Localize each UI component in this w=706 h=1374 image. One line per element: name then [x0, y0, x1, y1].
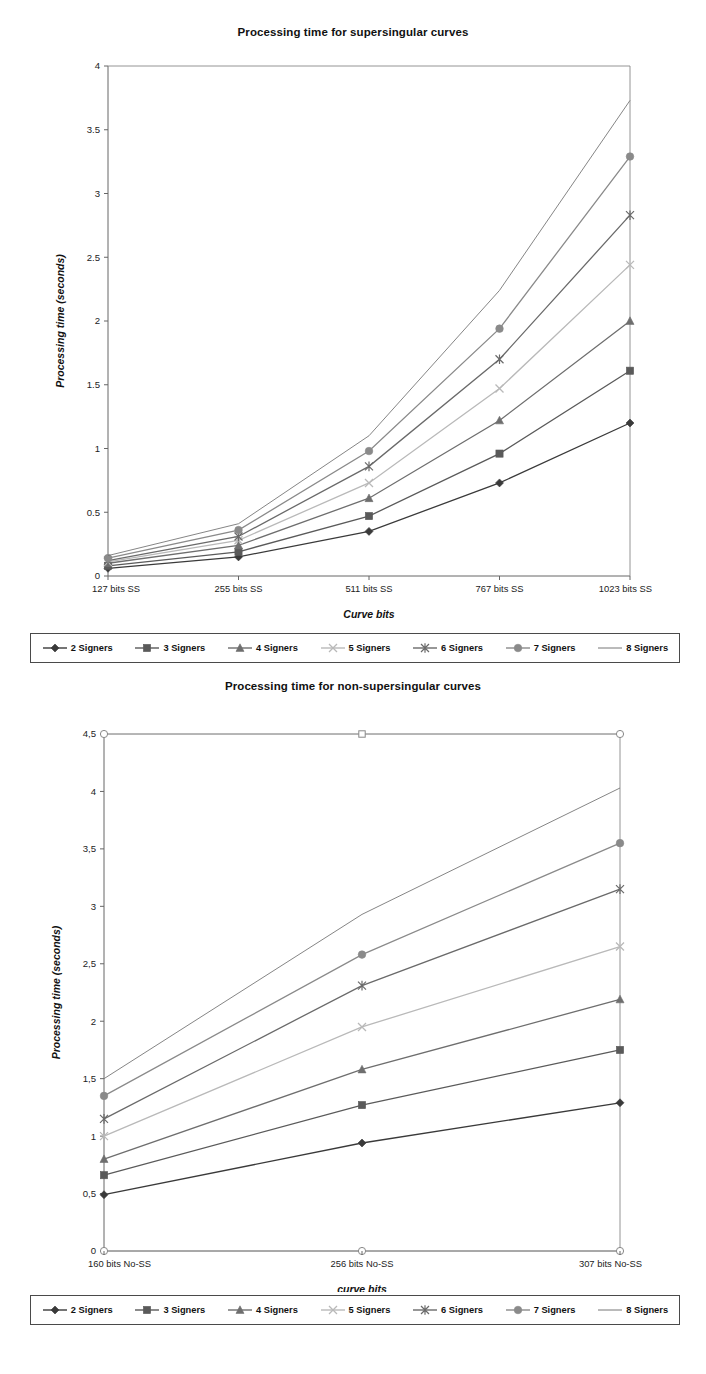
legend-item-label: 3 Signers [163, 643, 205, 653]
legend-item-2-signers[interactable]: 2 Signers [42, 641, 113, 655]
legend-item-label: 8 Signers [626, 1305, 668, 1315]
data-point-star [616, 884, 624, 894]
legend-item-label: 7 Signers [534, 643, 576, 653]
data-point-square [496, 450, 503, 457]
legend-item-label: 5 Signers [349, 643, 391, 653]
data-point-diamond [365, 527, 373, 535]
data-point-diamond [100, 1191, 108, 1199]
legend-marker-cross-icon [320, 1303, 346, 1317]
data-point-cross [365, 479, 373, 487]
x-axis-title: Curve bits [343, 608, 395, 620]
y-tick-label: 4 [91, 786, 97, 797]
y-tick-label: 3 [95, 188, 100, 199]
data-point-star [358, 981, 366, 991]
data-point-circle [365, 447, 373, 455]
y-tick-label: 1,5 [83, 1073, 96, 1084]
x-tick-label: 255 bits SS [215, 583, 263, 594]
x-tick-label: 127 bits SS [92, 583, 140, 594]
legend-item-3-signers[interactable]: 3 Signers [134, 641, 205, 655]
series-line-6-signers [108, 215, 630, 561]
legend-item-4-signers[interactable]: 4 Signers [227, 1303, 298, 1317]
legend-item-label: 8 Signers [626, 643, 668, 653]
chart-title-non-supersingular: Processing time for non-supersingular cu… [0, 672, 706, 692]
x-tick-label: 160 bits No-SS [88, 1258, 151, 1269]
y-tick-label: 1 [95, 443, 100, 454]
legend-item-label: 6 Signers [441, 1305, 483, 1315]
legend-item-5-signers[interactable]: 5 Signers [320, 641, 391, 655]
data-point-star [626, 210, 634, 220]
data-point-circle-open [100, 730, 107, 737]
legend-item-8-signers[interactable]: 8 Signers [597, 1303, 668, 1317]
y-tick-label: 0,5 [83, 1188, 96, 1199]
data-point-square [365, 512, 372, 519]
x-tick-label: 307 bits No-SS [579, 1258, 642, 1269]
data-point-square [235, 548, 242, 555]
y-axis-title: Processing time (seconds) [54, 254, 66, 388]
legend-item-2-signers[interactable]: 2 Signers [42, 1303, 113, 1317]
legend-item-label: 4 Signers [256, 1305, 298, 1315]
y-tick-label: 0 [91, 1245, 96, 1256]
legend-item-4-signers[interactable]: 4 Signers [227, 641, 298, 655]
legend-item-7-signers[interactable]: 7 Signers [505, 641, 576, 655]
data-point-circle [235, 526, 243, 534]
legend-item-8-signers[interactable]: 8 Signers [597, 641, 668, 655]
legend-item-label: 2 Signers [71, 643, 113, 653]
data-point-square-open [359, 731, 365, 737]
data-point-diamond [51, 644, 59, 652]
legend-marker-none-icon [597, 641, 623, 655]
data-point-diamond [51, 1306, 59, 1314]
y-tick-label: 2,5 [83, 958, 96, 969]
data-point-square [358, 1101, 365, 1108]
legend-item-7-signers[interactable]: 7 Signers [505, 1303, 576, 1317]
legend-marker-cross-icon [320, 641, 346, 655]
x-tick-label: 1023 bits SS [599, 583, 652, 594]
legend-item-label: 3 Signers [163, 1305, 205, 1315]
data-point-circle [514, 644, 522, 652]
data-point-square [144, 644, 151, 651]
data-point-circle [496, 325, 504, 333]
plot-area-non-supersingular: 00,511,522,533,544,5160 bits No-SS256 bi… [0, 692, 706, 1292]
data-point-square [144, 1306, 151, 1313]
data-point-circle [626, 153, 634, 161]
y-tick-label: 4,5 [83, 728, 96, 739]
data-point-triangle [626, 317, 634, 325]
y-axis-title: Processing time (seconds) [50, 925, 62, 1059]
x-axis-title: curve bits [337, 1283, 387, 1292]
legend-marker-star-icon [412, 1303, 438, 1317]
y-tick-label: 4 [95, 60, 101, 71]
data-point-triangle [496, 416, 504, 424]
legend-item-label: 5 Signers [349, 1305, 391, 1315]
legend-item-6-signers[interactable]: 6 Signers [412, 641, 483, 655]
legend-item-5-signers[interactable]: 5 Signers [320, 1303, 391, 1317]
data-point-circle [514, 1306, 522, 1314]
y-tick-label: 1 [91, 1131, 96, 1142]
data-point-square [616, 1046, 623, 1053]
y-tick-label: 0 [95, 570, 100, 581]
data-point-diamond [358, 1139, 366, 1147]
legend-item-6-signers[interactable]: 6 Signers [412, 1303, 483, 1317]
plot-area-supersingular: 00.511.522.533.54127 bits SS255 bits SS5… [0, 38, 706, 638]
legend-item-3-signers[interactable]: 3 Signers [134, 1303, 205, 1317]
data-point-diamond [616, 1099, 624, 1107]
y-tick-label: 2 [91, 1016, 96, 1027]
legend-marker-square-icon [134, 641, 160, 655]
data-point-diamond [626, 419, 634, 427]
data-point-square [100, 1172, 107, 1179]
data-point-triangle [365, 494, 373, 502]
data-point-star [365, 462, 373, 472]
data-point-square [626, 367, 633, 374]
x-tick-label: 256 bits No-SS [330, 1258, 393, 1269]
legend-item-label: 7 Signers [534, 1305, 576, 1315]
data-point-circle [616, 839, 624, 847]
y-tick-label: 1.5 [87, 379, 100, 390]
series-line-6-signers [104, 889, 620, 1119]
legend-marker-diamond-icon [42, 1303, 68, 1317]
legend-marker-circle-icon [505, 641, 531, 655]
x-tick-label: 511 bits SS [345, 583, 392, 594]
data-point-triangle [616, 995, 624, 1003]
legend-marker-diamond-icon [42, 641, 68, 655]
legend-item-label: 6 Signers [441, 643, 483, 653]
data-point-circle [358, 951, 366, 959]
legend-marker-triangle-icon [227, 641, 253, 655]
data-point-cross [496, 385, 504, 393]
